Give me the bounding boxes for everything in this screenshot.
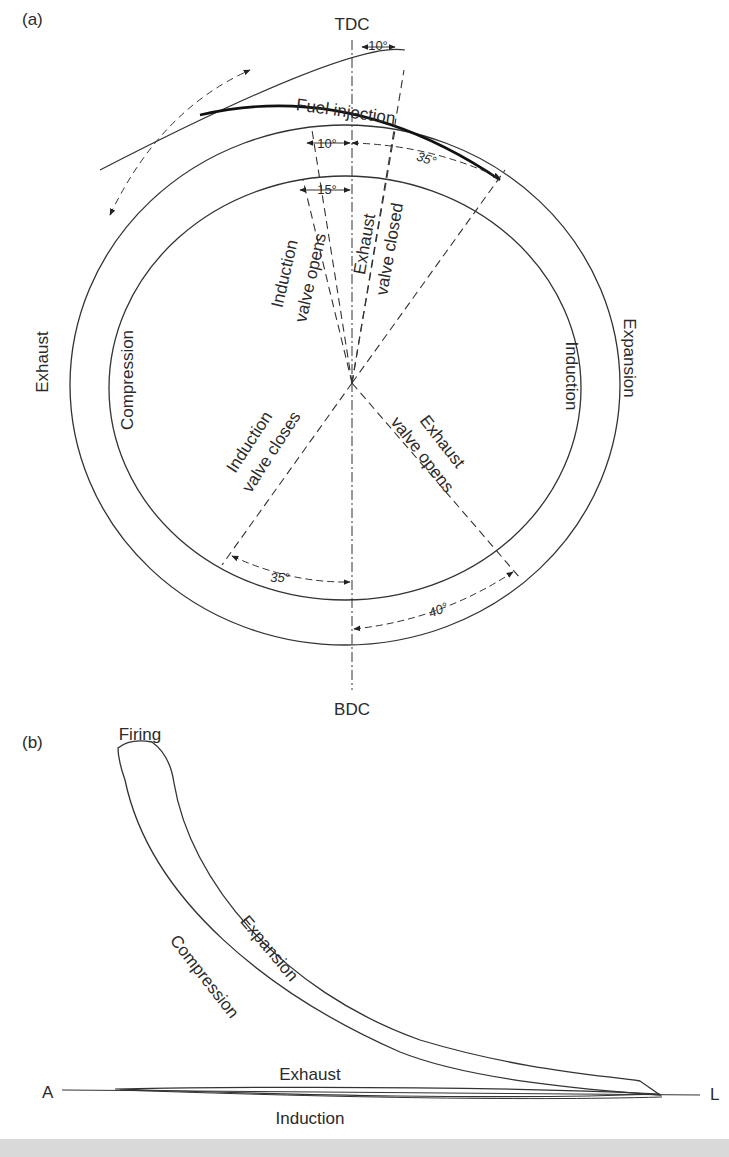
angle-40: 40° <box>426 599 450 620</box>
panel-b-indicator-diagram: (b) Firing A L Expansion Compression Exh… <box>22 725 719 1128</box>
panel-a-label: (a) <box>22 10 43 29</box>
exhaust-valve-closed-label: Exhaust valve closed <box>350 201 407 296</box>
induction-valve-opens-label: Induction valve opens <box>268 231 330 324</box>
exhaust-valve-opens-label: Exhaust valve opens <box>387 412 469 497</box>
inner-ring <box>109 176 581 600</box>
exhaust-stroke-label: Exhaust <box>33 331 52 393</box>
pressure-volume-loop <box>118 741 660 1095</box>
angle-35-bottom: 35° <box>270 570 290 585</box>
rotation-direction-arrow <box>110 70 250 215</box>
axis-label-a: A <box>42 1083 54 1102</box>
expansion-stroke-label: Expansion <box>620 318 639 397</box>
angle-10-fuel: 10° <box>317 136 337 151</box>
compression-curve-label: Compression <box>166 931 243 1022</box>
induction-valve-closes-label: Induction valve closes <box>223 408 305 496</box>
exhaust-line-label: Exhaust <box>279 1065 341 1084</box>
expansion-curve-label: Expansion <box>236 912 302 985</box>
engine-cycle-diagram: (a) TDC BDC <box>0 0 729 1157</box>
tdc-label: TDC <box>335 15 370 34</box>
bdc-label: BDC <box>334 700 370 719</box>
page-bottom-band <box>0 1139 729 1157</box>
angle-15: 15° <box>317 182 337 197</box>
angle-10-top: 10° <box>368 38 388 53</box>
induction-line-label: Induction <box>276 1109 345 1128</box>
angle-35-bottom-arrow <box>232 556 350 582</box>
svg-text:Exhaust: Exhaust <box>350 212 379 276</box>
induction-stroke-label: Induction <box>562 342 581 411</box>
panel-a-valve-timing-diagram: (a) TDC BDC <box>22 10 639 719</box>
axis-label-l: L <box>710 1085 719 1104</box>
outer-ring <box>70 125 620 645</box>
panel-b-label: (b) <box>22 733 43 752</box>
fuel-injection-label: Fuel injection <box>295 95 397 128</box>
compression-stroke-label: Compression <box>118 330 137 430</box>
angle-40-arrow <box>354 572 513 629</box>
angle-35-fuel: 35° <box>415 149 438 169</box>
